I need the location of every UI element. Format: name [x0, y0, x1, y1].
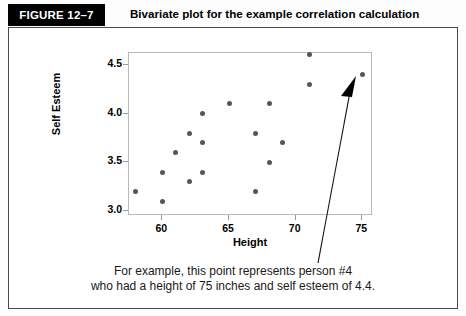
scatter-point [187, 131, 192, 136]
scatter-point [133, 189, 138, 194]
figure-number-badge: FIGURE 12–7 [8, 4, 105, 26]
scatter-point [227, 101, 232, 106]
scatter-point [307, 82, 312, 87]
y-axis-tick-label: 3.0 [96, 203, 122, 215]
figure-number-label: FIGURE 12–7 [19, 9, 93, 21]
x-axis-tick-label: 70 [278, 222, 312, 234]
scatter-point [160, 199, 165, 204]
caption-line-2: who had a height of 75 inches and self e… [40, 279, 426, 294]
x-axis-tick-label: 75 [344, 222, 378, 234]
scatter-point [253, 131, 258, 136]
figure-header: FIGURE 12–7 Bivariate plot for the examp… [0, 0, 466, 30]
x-axis-tick [161, 215, 162, 220]
scatter-point [187, 179, 192, 184]
scatter-point [307, 52, 312, 57]
scatter-point [200, 111, 205, 116]
y-axis-tick-label: 4.5 [96, 57, 122, 69]
scatter-point [200, 170, 205, 175]
scatter-point [280, 140, 285, 145]
x-axis-tick-label: 60 [144, 222, 178, 234]
x-axis-tick [228, 215, 229, 220]
scatter-point [253, 189, 258, 194]
figure-caption: For example, this point represents perso… [40, 264, 426, 294]
x-axis-title: Height [128, 236, 372, 248]
figure-title: Bivariate plot for the example correlati… [130, 7, 419, 20]
scatter-point [173, 150, 178, 155]
scatter-point [360, 72, 365, 77]
scatter-point [267, 101, 272, 106]
scatter-point [200, 140, 205, 145]
y-axis-tick-label: 4.0 [96, 106, 122, 118]
caption-line-1: For example, this point represents perso… [40, 264, 426, 279]
x-axis-tick-label: 65 [211, 222, 245, 234]
y-axis-title: Self Esteem [50, 44, 62, 164]
y-axis-tick-label: 3.5 [96, 154, 122, 166]
scatter-point [267, 160, 272, 165]
x-axis-tick [361, 215, 362, 220]
figure-container: FIGURE 12–7 Bivariate plot for the examp… [0, 0, 466, 316]
scatter-plot-area [128, 52, 372, 215]
x-axis-tick [295, 215, 296, 220]
scatter-point [160, 170, 165, 175]
